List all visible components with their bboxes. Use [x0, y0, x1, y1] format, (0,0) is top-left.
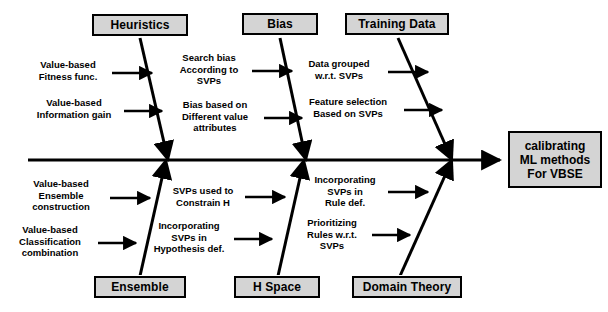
cause-line: Constrain H [165, 197, 241, 209]
bone-domain-theory [400, 160, 452, 276]
category-box-training-data[interactable]: Training Data [345, 13, 449, 35]
category-box-ensemble[interactable]: Ensemble [94, 276, 186, 298]
cause-line: Incorporating [306, 174, 384, 186]
bone-heuristics [140, 38, 168, 160]
cause-line: According to [170, 64, 248, 76]
cause-svps-used-to-constrain-h: SVPs used to Constrain H [165, 185, 241, 208]
cause-value-based-fitness-func: Value-based Fitness func. [22, 59, 114, 82]
cause-line: Information gain [24, 109, 124, 121]
cause-line: Fitness func. [22, 71, 114, 83]
cause-data-grouped-wrt-svps: Data grouped w.r.t. SVPs [295, 58, 383, 81]
cause-line: Incorporating [148, 220, 230, 232]
category-box-domain-theory[interactable]: Domain Theory [352, 276, 462, 298]
cause-line: SVPs [296, 240, 368, 252]
cause-incorporating-svps-in-rule-def: Incorporating SVPs in Rule def. [306, 174, 384, 209]
cause-line: Data grouped [295, 58, 383, 70]
effect-line-1: calibrating [525, 139, 586, 153]
cause-line: SVPs used to [165, 185, 241, 197]
cause-line: Bias based on [168, 99, 262, 111]
cause-line: Prioritizing [296, 217, 368, 229]
cause-line: SVPs in [148, 232, 230, 244]
cause-line: Value-based [22, 59, 114, 71]
cause-line: attributes [168, 122, 262, 134]
cause-line: Feature selection [297, 96, 399, 108]
cause-line: combination [6, 247, 94, 259]
cause-prioritizing-rules-wrt-svps: Prioritizing Rules w.r.t. SVPs [296, 217, 368, 252]
cause-value-based-ensemble-construction: Value-based Ensemble construction [16, 178, 106, 213]
cause-feature-selection-based-on-svps: Feature selection Based on SVPs [297, 96, 399, 119]
category-box-heuristics[interactable]: Heuristics [92, 14, 188, 36]
cause-line: w.r.t. SVPs [295, 70, 383, 82]
bone-ensemble [140, 160, 166, 276]
cause-line: Ensemble [16, 190, 106, 202]
cause-line: Rule def. [306, 197, 384, 209]
cause-value-based-classification-combination: Value-based Classification combination [6, 224, 94, 259]
cause-line: Hypothesis def. [148, 243, 230, 255]
cause-line: SVPs in [306, 186, 384, 198]
cause-bias-based-on-different-value-attributes: Bias based on Different value attributes [168, 99, 262, 134]
cause-line: Classification [6, 236, 94, 248]
cause-value-based-information-gain: Value-based Information gain [24, 97, 124, 120]
effect-box[interactable]: calibrating ML methods For VBSE [508, 131, 602, 188]
category-box-bias[interactable]: Bias [242, 13, 318, 35]
fishbone-diagram: Heuristics Bias Training Data Ensemble H… [0, 0, 608, 312]
cause-search-bias-according-to-svps: Search bias According to SVPs [170, 52, 248, 87]
effect-line-2: ML methods [520, 153, 590, 167]
category-box-h-space[interactable]: H Space [234, 276, 320, 298]
bone-training-data [398, 38, 452, 160]
cause-line: SVPs [170, 75, 248, 87]
cause-line: Search bias [170, 52, 248, 64]
cause-line: Different value [168, 111, 262, 123]
cause-line: Value-based [16, 178, 106, 190]
cause-line: Value-based [24, 97, 124, 109]
cause-line: Based on SVPs [297, 108, 399, 120]
cause-incorporating-svps-in-hypothesis-def: Incorporating SVPs in Hypothesis def. [148, 220, 230, 255]
cause-line: Rules w.r.t. [296, 229, 368, 241]
effect-line-3: For VBSE [527, 167, 582, 181]
cause-line: construction [16, 201, 106, 213]
cause-line: Value-based [6, 224, 94, 236]
